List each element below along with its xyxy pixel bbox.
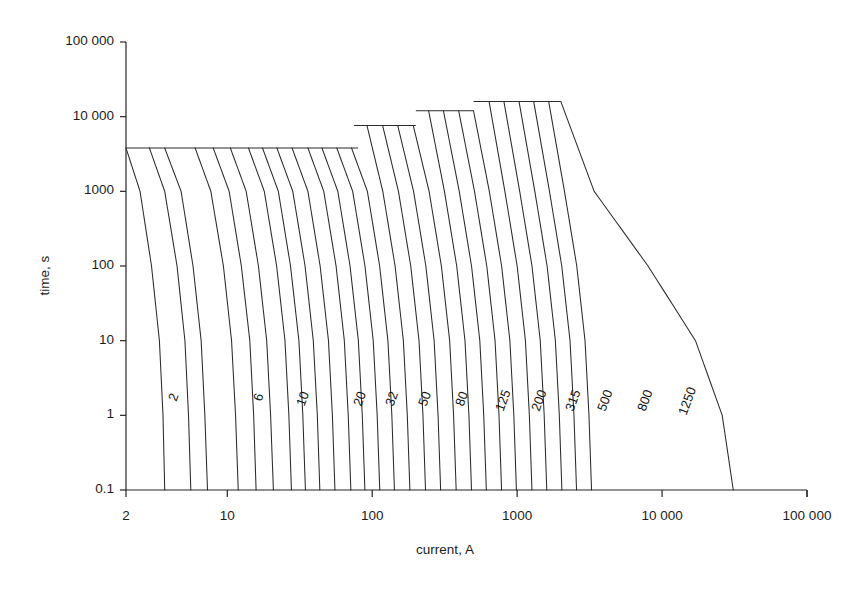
characteristic-curve [213, 148, 256, 490]
characteristic-curve [263, 148, 306, 490]
characteristic-curve [195, 148, 238, 490]
characteristic-curve [277, 148, 320, 490]
characteristic-curve [443, 111, 486, 490]
x-axis-tick-label: 10 [167, 508, 287, 523]
y-axis-title: time, s [37, 231, 52, 321]
x-axis-tick-label: 100 [312, 508, 432, 523]
characteristic-curve [489, 101, 532, 490]
characteristic-curve [352, 148, 395, 490]
characteristic-curve [413, 126, 456, 490]
y-axis-tick-label: 10 [0, 332, 114, 347]
characteristic-curve [149, 148, 190, 490]
characteristic-curve [308, 148, 351, 490]
characteristic-curve [549, 101, 592, 490]
x-axis-tick-label: 1000 [457, 508, 577, 523]
characteristic-curve [398, 126, 441, 490]
characteristic-curve [337, 148, 380, 490]
time-current-characteristic-plot [0, 0, 862, 589]
characteristic-curve [367, 126, 410, 490]
y-axis-tick-label: 1 [0, 406, 114, 421]
y-axis-tick-label: 100 [0, 257, 114, 272]
characteristic-curve [126, 148, 165, 490]
characteristic-curve [429, 111, 472, 490]
characteristic-curve [383, 126, 426, 490]
characteristic-curve [474, 111, 517, 490]
characteristic-curve [519, 101, 562, 490]
characteristic-curve [534, 101, 577, 490]
characteristic-curve [504, 101, 547, 490]
chart-root: 0.1110100100010 000100 000 210100100010 … [0, 0, 862, 589]
characteristic-curve [459, 111, 502, 490]
y-axis-tick-label: 1000 [0, 182, 114, 197]
x-axis-tick-label: 100 000 [747, 508, 862, 523]
characteristic-curve [165, 148, 208, 490]
y-axis-tick-label: 0.1 [0, 481, 114, 496]
characteristic-curve [322, 148, 365, 490]
characteristic-curve [561, 101, 734, 490]
characteristic-curve [292, 148, 335, 490]
y-axis-tick-label: 100 000 [0, 33, 114, 48]
y-axis-tick-label: 10 000 [0, 108, 114, 123]
x-axis-title: current, A [330, 542, 560, 557]
x-axis-tick-label: 10 000 [602, 508, 722, 523]
